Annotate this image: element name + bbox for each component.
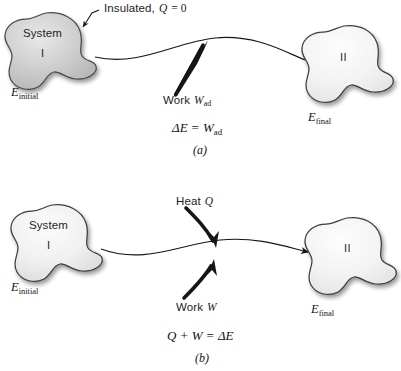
insulated-callout-lead: Insulated, — [104, 2, 155, 14]
work-label-symbol-a: W — [194, 94, 204, 106]
work-arrow-b — [184, 259, 217, 298]
work-arrow-a — [174, 40, 209, 97]
panel-caption-b: (b) — [195, 352, 209, 364]
system-roman-numeral-ii-b: II — [344, 243, 351, 254]
equation-b-term2: W — [192, 328, 203, 343]
insulated-callout-symbol: Q — [159, 2, 167, 14]
equation-a-operator: = — [192, 120, 199, 135]
system-label-a: System — [23, 28, 62, 40]
insulated-leader-line — [83, 10, 99, 27]
energy-final-subscript-b: final — [319, 308, 335, 318]
system-roman-numeral-b: I — [47, 240, 51, 251]
blob-system-ii-b — [305, 218, 396, 295]
thermodynamics-figure: Insulated,Q= 0 System I Einitial WorkWad… — [0, 0, 401, 371]
blob-system-ii-a — [302, 26, 393, 103]
work-label-lead-a: Work — [163, 94, 190, 106]
heat-label-b: HeatQ — [176, 196, 213, 208]
energy-final-subscript-a: final — [316, 116, 332, 126]
heat-arrow-b — [186, 208, 219, 248]
equation-a: ΔE=Wad — [172, 121, 222, 134]
energy-initial-b: Einitial — [11, 281, 38, 294]
system-roman-numeral-ii-a: II — [340, 52, 347, 63]
energy-initial-symbol-a: E — [11, 85, 19, 99]
work-label-a: WorkWad — [163, 95, 211, 107]
energy-final-symbol-b: E — [311, 302, 319, 316]
panel-caption-a: (a) — [193, 144, 207, 156]
equation-b-rhs: E — [226, 328, 234, 343]
work-label-lead-b: Work — [176, 301, 203, 313]
equation-b-term1: Q — [167, 328, 176, 343]
energy-final-a: Efinal — [308, 111, 331, 124]
energy-initial-symbol-b: E — [11, 280, 19, 294]
blob-system-i-a — [5, 13, 96, 90]
system-roman-numeral-a: I — [41, 48, 45, 59]
insulated-callout: Insulated,Q= 0 — [104, 3, 187, 15]
equation-a-rhs: W — [203, 120, 214, 135]
work-label-subscript-a: ad — [204, 99, 212, 108]
work-label-b: WorkW — [176, 302, 217, 314]
equation-a-delta: Δ — [172, 120, 180, 135]
heat-label-symbol-b: Q — [205, 195, 213, 207]
equation-a-rhs-subscript: ad — [214, 127, 222, 137]
equation-b-plus: + — [180, 328, 187, 343]
energy-final-symbol-a: E — [308, 110, 316, 124]
blob-system-i-b — [11, 205, 102, 282]
equation-b: Q+W=ΔE — [167, 329, 234, 342]
work-label-symbol-b: W — [207, 301, 217, 313]
energy-final-b: Efinal — [311, 303, 334, 316]
equation-b-delta: Δ — [218, 328, 226, 343]
equation-a-lhs: E — [180, 120, 188, 135]
energy-initial-a: Einitial — [11, 86, 38, 99]
process-path-b — [101, 239, 308, 255]
energy-initial-subscript-a: initial — [19, 91, 39, 101]
system-label-b: System — [29, 220, 68, 232]
panel-b-artwork — [11, 205, 396, 298]
energy-initial-subscript-b: initial — [19, 286, 39, 296]
heat-label-lead-b: Heat — [176, 195, 201, 207]
panel-a-artwork — [5, 10, 393, 102]
insulated-callout-relation: = 0 — [171, 2, 186, 14]
equation-b-operator: = — [207, 328, 214, 343]
